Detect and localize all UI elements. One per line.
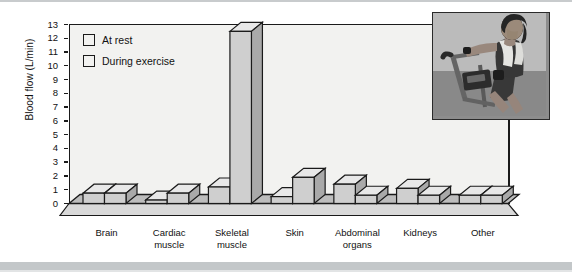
top-divider-rule	[0, 0, 572, 2]
y-tick-8	[64, 93, 68, 94]
y-tick-1	[64, 189, 68, 190]
legend-swatch-during-exercise	[83, 55, 95, 67]
y-tick-7	[64, 106, 68, 107]
y-tick-6	[64, 120, 68, 121]
legend-item-during-exercise: During exercise	[83, 55, 175, 67]
y-tick-9	[64, 79, 68, 80]
figure-root: Blood flow (L/min) 012345678910111213 At…	[0, 0, 572, 275]
exercise-photo	[432, 12, 550, 120]
x-axis-label-line: organs	[315, 239, 399, 251]
legend-item-at-rest: At rest	[83, 34, 175, 46]
y-tick-13	[64, 24, 68, 25]
bottom-divider-rule	[0, 262, 572, 270]
x-axis-labels: BrainCardiacmuscleSkeletalmuscleSkinAbdo…	[0, 227, 572, 261]
y-tick-label-8: 8	[42, 88, 58, 98]
x-axis-label-line: muscle	[190, 239, 274, 251]
x-axis-label-other: Other	[441, 227, 525, 239]
y-tick-10	[64, 65, 68, 66]
y-tick-label-0: 0	[42, 199, 58, 209]
y-tick-2	[64, 175, 68, 176]
legend-label-at-rest: At rest	[102, 34, 132, 46]
y-tick-label-11: 11	[42, 47, 58, 57]
y-axis-title: Blood flow (L/min)	[24, 10, 35, 150]
y-tick-4	[64, 148, 68, 149]
exercise-photo-graphic	[433, 13, 546, 116]
y-axis-title-wrap: Blood flow (L/min)	[8, 0, 34, 230]
bottom-divider-rule-secondary	[0, 270, 572, 272]
chart-floor-front	[60, 204, 518, 216]
y-tick-label-9: 9	[42, 75, 58, 85]
y-tick-5	[64, 134, 68, 135]
y-tick-label-13: 13	[42, 20, 58, 30]
y-tick-label-2: 2	[42, 171, 58, 181]
y-tick-label-10: 10	[42, 61, 58, 71]
y-tick-12	[64, 38, 68, 39]
y-tick-11	[64, 51, 68, 52]
y-tick-label-5: 5	[42, 130, 58, 140]
chart-legend: At rest During exercise	[83, 34, 175, 76]
y-tick-label-7: 7	[42, 102, 58, 112]
y-tick-label-6: 6	[42, 116, 58, 126]
y-axis-line	[69, 24, 71, 204]
y-tick-label-1: 1	[42, 185, 58, 195]
legend-swatch-at-rest	[83, 34, 95, 46]
legend-label-during-exercise: During exercise	[102, 55, 175, 67]
y-tick-label-4: 4	[42, 143, 58, 153]
y-tick-3	[64, 161, 68, 162]
y-tick-0	[64, 203, 68, 204]
x-axis-label-line: Other	[441, 227, 525, 239]
y-tick-label-3: 3	[42, 157, 58, 167]
y-tick-label-12: 12	[42, 33, 58, 43]
